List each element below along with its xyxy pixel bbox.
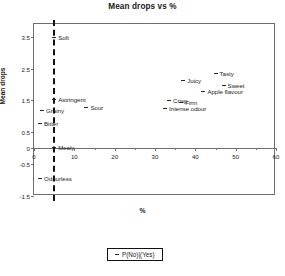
data-point-label: Mealy [58, 143, 74, 150]
x-tick [74, 148, 75, 151]
y-tick-label: 1.5 [8, 97, 30, 104]
chart-root: Mean drops vs % 01020304050603.52.51.50.… [0, 0, 285, 276]
data-point [222, 85, 226, 86]
chart-title: Mean drops vs % [0, 2, 285, 11]
x-tick-minor [175, 148, 176, 150]
data-point [163, 108, 167, 109]
y-tick-label: -1.5 [8, 193, 30, 200]
data-point-label: Juicy [187, 76, 201, 83]
data-point-label: Sweet [228, 81, 245, 88]
data-point [52, 147, 56, 148]
data-point [84, 107, 88, 108]
y-tick [31, 148, 34, 149]
data-point-label: Tasty [220, 70, 234, 77]
y-tick [31, 132, 34, 133]
data-point-label: Bitter [44, 119, 58, 126]
y-tick-label: 2.5 [8, 65, 30, 72]
y-axis-label: Mean drops [0, 67, 6, 104]
x-tick-label: 40 [185, 153, 205, 160]
x-tick [276, 148, 277, 151]
legend: P(No)|(Yes) [107, 248, 163, 261]
x-tick-label: 0 [24, 153, 44, 160]
x-tick-minor [216, 148, 217, 150]
data-point-label: Apple flavour [207, 87, 243, 94]
data-point-label: Astringent [58, 95, 85, 102]
data-point-label: Odourless [44, 175, 72, 182]
y-tick [31, 69, 34, 70]
data-point [201, 91, 205, 92]
data-point [38, 178, 42, 179]
data-point-label: Sour [90, 103, 103, 110]
legend-label: P(No)|(Yes) [122, 251, 155, 258]
x-tick [236, 148, 237, 151]
x-tick-label: 20 [105, 153, 125, 160]
x-tick [155, 148, 156, 151]
data-point-label: Soft [58, 33, 69, 40]
x-axis-label: % [0, 207, 285, 214]
data-point [181, 80, 185, 81]
data-point [52, 37, 56, 38]
x-tick [115, 148, 116, 151]
x-tick-label: 50 [226, 153, 246, 160]
plot-area: 01020304050603.52.51.50.50-0.5-1.5SoftAs… [33, 23, 275, 195]
y-tick-label: -0.5 [8, 161, 30, 168]
x-tick-label: 30 [145, 153, 165, 160]
x-tick-minor [95, 148, 96, 150]
y-tick [31, 164, 34, 165]
y-tick-label: 0.5 [8, 129, 30, 136]
x-tick-minor [135, 148, 136, 150]
data-point-label: Firm [185, 99, 197, 106]
data-point [167, 100, 171, 101]
y-tick-label: 3.5 [8, 33, 30, 40]
legend-marker-icon [115, 254, 119, 255]
data-point [214, 73, 218, 74]
x-tick [34, 148, 35, 151]
y-tick-label: 0 [8, 145, 30, 152]
data-point [40, 110, 44, 111]
y-tick [31, 100, 34, 101]
x-tick [195, 148, 196, 151]
data-point [179, 102, 183, 103]
data-point [38, 123, 42, 124]
data-point-label: Grainy [46, 107, 64, 114]
y-tick [31, 37, 34, 38]
data-point [52, 99, 56, 100]
x-tick-label: 10 [64, 153, 84, 160]
x-tick-label: 60 [266, 153, 285, 160]
y-tick [31, 196, 34, 197]
x-tick-minor [256, 148, 257, 150]
